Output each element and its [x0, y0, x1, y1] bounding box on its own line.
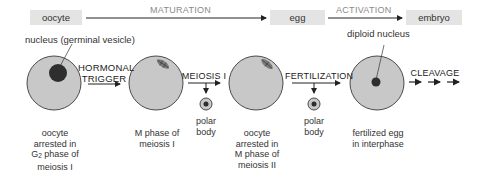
- cell-1-caption: oocyte arrested in G2 phase of meiosis I: [24, 128, 86, 172]
- cell-1-line3: G2 phase of: [24, 149, 86, 162]
- polar-body-1-line2: body: [191, 127, 221, 138]
- cell-4-line1: fertilized egg: [345, 128, 411, 139]
- cleavage-label: CLEAVAGE: [409, 68, 461, 79]
- polar-body-1-label: polar body: [191, 116, 221, 137]
- cell-m-phase-meiosis-i: [129, 56, 183, 110]
- cell-3-line2: arrested in: [226, 139, 288, 150]
- cell-4-line2: in interphase: [345, 139, 411, 150]
- polar-body-2: [308, 98, 320, 110]
- cell-fertilized-egg: [350, 45, 404, 110]
- cell-1-line1: oocyte: [24, 128, 86, 139]
- cell-2-line2: meiosis I: [126, 139, 188, 150]
- cell-3-line4: meiosis II: [226, 160, 288, 171]
- germinal-vesicle: [49, 64, 67, 82]
- polar-body-1: [200, 98, 212, 110]
- cell-2-line1: M phase of: [126, 128, 188, 139]
- polar-body-1-line1: polar: [191, 116, 221, 127]
- cell-1-line2: arrested in: [24, 139, 86, 150]
- polar-body-2-label: polar body: [299, 116, 329, 137]
- polar-body-2-line2: body: [299, 127, 329, 138]
- cell-3-line1: oocyte: [226, 128, 288, 139]
- polar-body-2-line1: polar: [299, 116, 329, 127]
- hormonal-trigger-line2: TRIGGER: [78, 73, 130, 84]
- fertilization-arrow: [292, 83, 340, 93]
- meiosis-i-arrow: [188, 83, 220, 93]
- cell-4-caption: fertilized egg in interphase: [345, 128, 411, 149]
- cell-3-caption: oocyte arrested in M phase of meiosis II: [226, 128, 288, 170]
- cell-oocyte-g2: [27, 44, 81, 110]
- cell-m-phase-meiosis-ii: [229, 56, 283, 110]
- cell-2-caption: M phase of meiosis I: [126, 128, 188, 149]
- nucleus-annotation: nucleus (germinal vesicle): [25, 35, 135, 46]
- diploid-nucleus-annotation: diploid nucleus: [347, 29, 410, 40]
- hormonal-trigger-label: HORMONAL TRIGGER: [78, 62, 130, 84]
- hormonal-trigger-line1: HORMONAL: [78, 62, 130, 73]
- cell-3-line3: M phase of: [226, 149, 288, 160]
- cell-1-line4: meiosis I: [24, 162, 86, 173]
- fertilization-label: FERTILIZATION: [285, 71, 351, 82]
- meiosis-i-label: MEIOSIS I: [181, 71, 227, 82]
